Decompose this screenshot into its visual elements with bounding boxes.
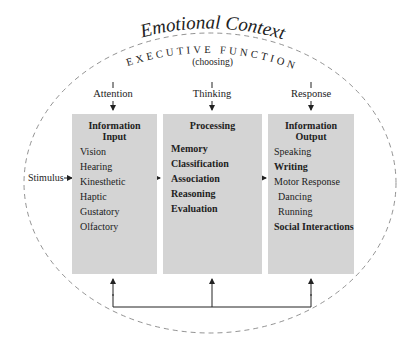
list-item: Hearing bbox=[80, 159, 157, 174]
thinking-label: Thinking bbox=[182, 88, 242, 99]
box-title: Processing bbox=[163, 120, 262, 131]
list-item: Memory bbox=[171, 141, 262, 156]
list-item: Speaking bbox=[274, 144, 354, 159]
box-title: Information Input bbox=[72, 120, 157, 142]
response-label: Response bbox=[281, 88, 341, 99]
list-item: Classification bbox=[171, 156, 262, 171]
stimulus-label: Stimulus bbox=[28, 172, 64, 183]
information-input-box: Information Input Vision Hearing Kinesth… bbox=[72, 114, 157, 274]
executive-function-note: (choosing) bbox=[0, 57, 419, 67]
list-item: Vision bbox=[80, 144, 157, 159]
box-title: Information Output bbox=[268, 120, 354, 142]
list-item: Gustatory bbox=[80, 204, 157, 219]
list-item: Association bbox=[171, 171, 262, 186]
list-item: Reasoning bbox=[171, 186, 262, 201]
list-item: Motor Response bbox=[274, 174, 354, 189]
processing-box: Processing Memory Classification Associa… bbox=[163, 114, 262, 274]
list-item: Evaluation bbox=[171, 201, 262, 216]
list-item: Social Interactions bbox=[274, 219, 354, 234]
information-output-box: Information Output Speaking Writing Moto… bbox=[268, 114, 354, 274]
list-item: Haptic bbox=[80, 189, 157, 204]
list-item: Writing bbox=[274, 159, 354, 174]
list-item: Olfactory bbox=[80, 219, 157, 234]
list-item: Running bbox=[274, 204, 354, 219]
list-item: Kinesthetic bbox=[80, 174, 157, 189]
attention-label: Attention bbox=[83, 88, 143, 99]
list-item: Dancing bbox=[274, 189, 354, 204]
